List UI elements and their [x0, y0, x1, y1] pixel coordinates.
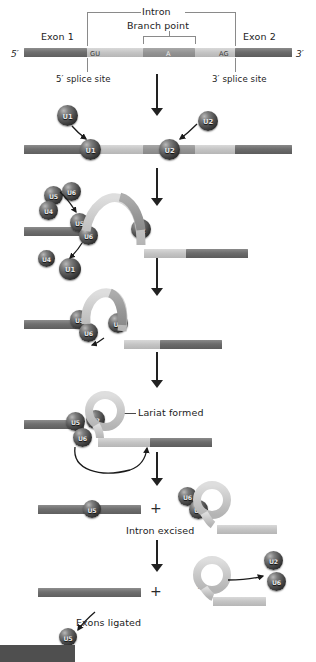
- step6-lariat-circle: [197, 560, 227, 590]
- curves-overlay: [0, 0, 316, 662]
- snrnp-release-arrow: [228, 576, 263, 580]
- u1-binding-arrow: [72, 126, 86, 139]
- step3-attack-arrow: [92, 338, 104, 345]
- step3-branch-loop: [110, 293, 122, 325]
- lariat-circle: [89, 395, 121, 427]
- u4-u1-release-arrow: [70, 243, 82, 258]
- step2-branch-arch: [120, 197, 141, 230]
- u2-binding-arrow: [180, 124, 197, 139]
- lariat-tail-join: [96, 425, 100, 438]
- trisnrnp-binding-arrow: [60, 192, 76, 212]
- exon-attack-arrow: [75, 447, 147, 473]
- step5-lariat-circle: [197, 485, 227, 515]
- splicing-diagram: Intron Branch point Exon 1 Exon 2 5′ 3′ …: [0, 0, 316, 662]
- u5-release-arrow: [78, 612, 95, 630]
